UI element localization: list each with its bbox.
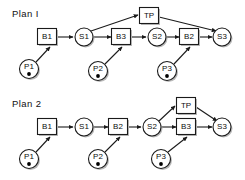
node-p2-plan1[interactable]: P2 bbox=[89, 62, 110, 83]
node-s3-plan2[interactable]: S3 bbox=[213, 118, 233, 138]
edge-p2-b3 bbox=[105, 47, 122, 64]
edge2-p3-b3 bbox=[168, 137, 187, 152]
node-tp-plan2-label: TP bbox=[181, 101, 191, 110]
node-b3-plan1[interactable]: B3 bbox=[112, 29, 133, 47]
node-p3-plan2-label: P3 bbox=[156, 152, 166, 161]
node-b1-plan2-label: B1 bbox=[42, 122, 52, 131]
edge2-p2-b2 bbox=[105, 137, 120, 152]
edge2-s2-tp bbox=[159, 106, 175, 121]
node-p3-label: P3 bbox=[162, 64, 172, 73]
process-flow-diagram: Plan I B1 bbox=[0, 0, 245, 180]
node-p1-token-dot bbox=[27, 72, 31, 76]
node-b3-plan2[interactable]: B3 bbox=[177, 119, 198, 137]
edge-p3-b2 bbox=[174, 47, 190, 64]
node-tp-plan1[interactable]: TP bbox=[140, 8, 161, 26]
node-s1-plan2-label: S1 bbox=[79, 122, 89, 131]
node-p2-plan2[interactable]: P2 bbox=[89, 150, 110, 171]
node-s1-label: S1 bbox=[79, 32, 89, 41]
node-b1-plan2[interactable]: B1 bbox=[38, 119, 59, 137]
node-b3-label: B3 bbox=[116, 32, 126, 41]
plan-1-title: Plan I bbox=[12, 8, 39, 19]
node-b2-plan2[interactable]: B2 bbox=[109, 119, 130, 137]
edge-p1-b1 bbox=[36, 47, 50, 62]
node-p2-token-dot bbox=[96, 74, 100, 78]
plan-1-group: Plan I B1 bbox=[12, 8, 233, 83]
node-tp-label: TP bbox=[144, 11, 154, 20]
node-p2-label: P2 bbox=[93, 64, 103, 73]
plan-2-title: Plan 2 bbox=[12, 98, 41, 109]
node-p2-plan2-token-dot bbox=[96, 162, 100, 166]
diagram-root: Plan I B1 bbox=[0, 0, 245, 180]
node-p3-plan2[interactable]: P3 bbox=[152, 150, 173, 171]
edge2-tp-s3 bbox=[196, 107, 217, 121]
node-p3-plan1[interactable]: P3 bbox=[158, 62, 179, 83]
node-s2-label: S2 bbox=[152, 32, 162, 41]
node-s1-plan2[interactable]: S1 bbox=[75, 118, 95, 138]
node-b1-label: B1 bbox=[42, 32, 52, 41]
node-s2-plan1[interactable]: S2 bbox=[148, 28, 168, 48]
node-p1-plan1[interactable]: P1 bbox=[20, 60, 41, 81]
node-b2-plan1[interactable]: B2 bbox=[180, 29, 201, 47]
node-s3-plan1[interactable]: S3 bbox=[213, 28, 233, 48]
node-s2-plan2-label: S2 bbox=[147, 122, 157, 131]
node-s3-plan2-label: S3 bbox=[217, 122, 227, 131]
node-p2-plan2-label: P2 bbox=[93, 152, 103, 161]
node-p1-plan2[interactable]: P1 bbox=[20, 150, 41, 171]
node-b1[interactable]: B1 bbox=[38, 29, 59, 47]
plan-2-group: Plan 2 B1 bbox=[12, 98, 233, 171]
node-p1-label: P1 bbox=[24, 62, 34, 71]
node-p1-plan2-token-dot bbox=[27, 162, 31, 166]
node-b3-plan2-label: B3 bbox=[181, 122, 191, 131]
node-b2-plan2-label: B2 bbox=[113, 122, 123, 131]
node-b2-label: B2 bbox=[184, 32, 194, 41]
node-p1-plan2-label: P1 bbox=[24, 152, 34, 161]
node-p3-token-dot bbox=[165, 74, 169, 78]
node-s3-label: S3 bbox=[217, 32, 227, 41]
node-p3-plan2-token-dot bbox=[159, 162, 163, 166]
node-tp-plan2[interactable]: TP bbox=[177, 98, 198, 116]
edge2-p1-b1 bbox=[36, 137, 50, 152]
